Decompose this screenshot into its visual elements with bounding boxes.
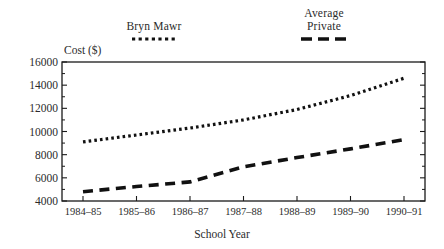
series-line-average-private — [83, 140, 404, 192]
axis-frame — [62, 62, 425, 201]
plot-area — [0, 0, 444, 249]
chart-figure: Bryn Mawr Average Private Cost ($) Schoo… — [0, 0, 444, 249]
series-line-bryn-mawr — [83, 78, 404, 142]
data-series-group — [83, 78, 404, 192]
axis-ticks — [62, 62, 425, 201]
